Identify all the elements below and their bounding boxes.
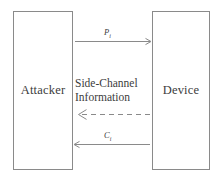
side-channel-line-1: Side-Channel [75, 76, 151, 90]
device-box: Device [152, 11, 210, 170]
attacker-label: Attacker [21, 83, 66, 98]
side-channel-line-2: Information [75, 90, 151, 104]
plaintext-label: Pi [104, 27, 111, 39]
ciphertext-arrow [74, 141, 150, 147]
side-channel-arrow [79, 110, 152, 120]
device-label: Device [163, 83, 200, 98]
ciphertext-label: Ci [104, 130, 111, 142]
plaintext-arrow [75, 38, 151, 44]
ciphertext-subscript: i [110, 136, 112, 142]
side-channel-attack-diagram: Attacker Device Pi Ci Side-Channel Infor… [0, 0, 221, 183]
plaintext-subscript: i [109, 33, 111, 39]
attacker-box: Attacker [13, 11, 73, 170]
side-channel-information-label: Side-Channel Information [75, 76, 151, 104]
